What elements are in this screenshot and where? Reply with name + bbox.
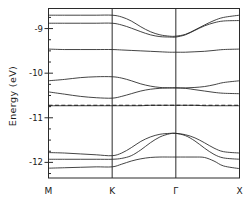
x-tick-label: Γ: [173, 186, 178, 196]
band-structure-figure: Energy (eV) -9-10-11-12 MKΓX: [0, 0, 249, 202]
band-curve-band-5: [49, 88, 240, 98]
y-tick-label: -9: [35, 24, 43, 34]
band-curve-band-4: [49, 77, 240, 88]
y-tick-label: -10: [29, 68, 43, 78]
x-tick-label: K: [109, 186, 116, 196]
plot-canvas: Energy (eV) -9-10-11-12 MKΓX: [0, 0, 249, 202]
y-axis-title: Energy (eV): [7, 66, 18, 126]
y-tick-label-group: -9-10-11-12: [29, 24, 43, 168]
band-curve-band-3: [49, 49, 240, 52]
y-axis-title-text: Energy (eV): [7, 66, 18, 126]
x-tick-label: M: [45, 186, 53, 196]
y-tick-label: -11: [29, 113, 43, 123]
x-tick-label: X: [236, 186, 242, 196]
x-tick-label-group: MKΓX: [45, 186, 243, 196]
band-curve-band-9: [49, 157, 240, 169]
y-tick-label: -12: [29, 157, 43, 167]
band-curve-group: [49, 15, 240, 169]
